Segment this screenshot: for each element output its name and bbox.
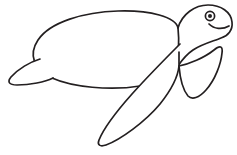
sea-turtle-illustration [0,0,237,155]
turtle-eye-pupil [208,14,212,18]
drawing-canvas [0,0,237,155]
